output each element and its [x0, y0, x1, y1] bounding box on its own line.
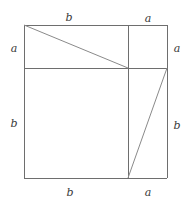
label-right-b: b [173, 120, 180, 131]
label-left-a: a [11, 43, 18, 54]
upper-left-diagonal [24, 25, 128, 68]
label-right-a: a [174, 43, 181, 54]
lower-right-diagonal [128, 68, 167, 178]
label-top-a: a [145, 13, 152, 24]
label-bottom-b: b [66, 187, 73, 198]
label-left-b: b [10, 118, 17, 129]
label-bottom-a: a [145, 187, 152, 198]
figure-canvas [0, 0, 192, 210]
label-top-b: b [65, 12, 72, 23]
geometry-figure: b a a b a b b a [0, 0, 192, 210]
